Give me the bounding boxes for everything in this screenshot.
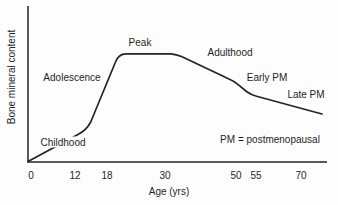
x-tick-label-12: 12 (69, 170, 80, 181)
x-axis-label: Age (yrs) (149, 186, 190, 197)
phase-label-childhood: Childhood (39, 137, 86, 148)
x-tick-label-50: 50 (230, 170, 241, 181)
phase-label-peak: Peak (129, 37, 152, 48)
phase-label-adolescence: Adolescence (43, 72, 100, 83)
phase-label-adulthood: Adulthood (207, 47, 252, 58)
pm-abbreviation-note: PM = postmenopausal (220, 134, 320, 145)
figure-bone-mineral-chart: Bone mineral content Childhood Adolescen… (0, 0, 338, 205)
x-tick-label-18: 18 (101, 170, 112, 181)
phase-label-early-pm: Early PM (247, 72, 288, 83)
phase-label-late-pm: Late PM (287, 89, 324, 100)
y-axis-label: Bone mineral content (6, 30, 17, 125)
x-tick-label-30: 30 (159, 170, 170, 181)
x-tick-label-55: 55 (250, 170, 261, 181)
x-tick-label-0: 0 (28, 170, 34, 181)
x-tick-label-70: 70 (295, 170, 306, 181)
